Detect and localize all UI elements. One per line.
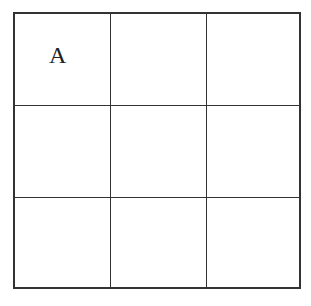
cell-r1-c1: A	[15, 14, 111, 106]
cell-r1-c2	[111, 14, 207, 106]
cell-r3-c2	[111, 198, 207, 287]
cell-r3-c1	[15, 198, 111, 287]
cell-r2-c3	[207, 106, 299, 198]
cell-label: A	[49, 42, 66, 69]
cell-r2-c1	[15, 106, 111, 198]
cell-r2-c2	[111, 106, 207, 198]
cell-r1-c3	[207, 14, 299, 106]
cell-r3-c3	[207, 198, 299, 287]
grid-3x3: A	[13, 12, 301, 289]
